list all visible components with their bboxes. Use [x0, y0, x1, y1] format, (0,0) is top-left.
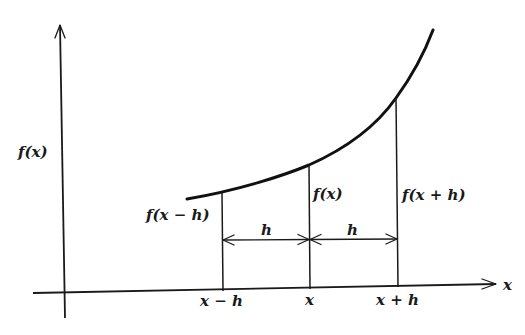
tick-label-x: x — [304, 291, 315, 309]
tick-label-x-plus-h: x + h — [375, 291, 419, 309]
ordinate-label-x-plus-h: f(x + h) — [401, 186, 466, 204]
ordinate-label-x-minus-h: f(x − h) — [145, 206, 210, 224]
finite-difference-diagram: f(x) x f(x − h) f(x) f(x + h) h h x − h … — [0, 0, 525, 335]
ordinate-line-x-plus-h — [396, 98, 398, 287]
ordinate-line-x — [309, 165, 310, 289]
spacing-label-right: h — [347, 221, 358, 239]
y-axis-label: f(x) — [17, 143, 48, 161]
ordinate-label-x: f(x) — [312, 185, 343, 203]
x-axis-label: x — [502, 276, 513, 294]
spacing-label-left: h — [261, 221, 272, 239]
y-axis — [55, 25, 65, 318]
ordinate-line-x-minus-h — [222, 193, 223, 291]
tick-label-x-minus-h: x − h — [199, 292, 243, 310]
x-axis — [33, 279, 496, 293]
